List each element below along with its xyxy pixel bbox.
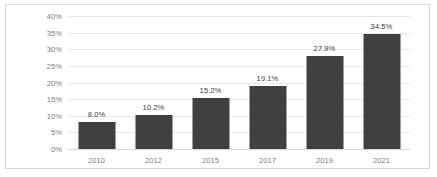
- x-axis-tick-label: 2012: [145, 156, 162, 165]
- y-axis-tick-label: 35%: [47, 28, 62, 37]
- y-axis-tick-label: 10%: [47, 111, 62, 120]
- bar-group: 10.2%2012: [125, 16, 182, 149]
- bar[interactable]: [135, 115, 172, 149]
- plot-area: 0%5%10%15%20%25%30%35%40% 8.0%201010.2%2…: [68, 16, 410, 149]
- y-axis-tick-label: 5%: [51, 128, 62, 137]
- bar-value-label: 8.0%: [88, 110, 106, 119]
- bar[interactable]: [306, 56, 343, 149]
- x-axis-tick-label: 2019: [316, 156, 333, 165]
- bar[interactable]: [192, 98, 229, 149]
- bar[interactable]: [249, 86, 286, 150]
- x-axis-tick-label: 2010: [88, 156, 105, 165]
- y-axis-tick-label: 40%: [47, 12, 62, 21]
- x-axis-tick-label: 2021: [373, 156, 390, 165]
- bar-value-label: 19.1%: [257, 74, 279, 83]
- y-axis-tick-label: 0%: [51, 145, 62, 154]
- bar-series: 8.0%201010.2%201215.2%201519.1%201727.9%…: [68, 16, 410, 149]
- y-axis-tick-label: 15%: [47, 95, 62, 104]
- y-axis-tick-label: 30%: [47, 45, 62, 54]
- bar-value-label: 34.5%: [371, 22, 393, 31]
- bar-value-label: 15.2%: [200, 86, 222, 95]
- bar-value-label: 27.9%: [314, 44, 336, 53]
- y-axis-tick-label: 20%: [47, 78, 62, 87]
- chart-frame: 0%5%10%15%20%25%30%35%40% 8.0%201010.2%2…: [5, 4, 430, 169]
- axis-baseline: [68, 149, 410, 150]
- x-axis-tick-label: 2017: [259, 156, 276, 165]
- bar-group: 8.0%2010: [68, 16, 125, 149]
- bar[interactable]: [363, 34, 400, 149]
- bar-group: 27.9%2019: [296, 16, 353, 149]
- bar-group: 15.2%2015: [182, 16, 239, 149]
- x-axis-tick-label: 2015: [202, 156, 219, 165]
- bar[interactable]: [78, 122, 115, 149]
- bar-value-label: 10.2%: [143, 103, 165, 112]
- y-axis-tick-label: 25%: [47, 61, 62, 70]
- bar-group: 34.5%2021: [353, 16, 410, 149]
- bar-group: 19.1%2017: [239, 16, 296, 149]
